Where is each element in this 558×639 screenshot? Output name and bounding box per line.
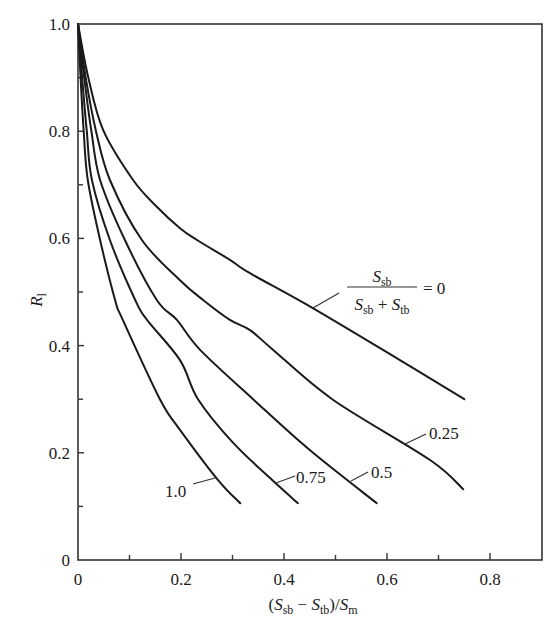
y-axis-title: Rl: [27, 292, 49, 307]
curve-0: [78, 24, 464, 399]
legend-numerator: Ssb: [372, 267, 391, 289]
y-tick-label: 1.0: [49, 15, 70, 34]
legend-denominator: Ssb + Stb: [354, 295, 409, 317]
curve-label-text: 1.0: [165, 482, 186, 501]
chart: 00.20.40.60.800.20.40.60.81.0 Rl (Ssb − …: [0, 0, 558, 639]
y-tick-label: 0.8: [49, 122, 70, 141]
y-tick-label: 0.6: [49, 229, 70, 248]
x-tick-label: 0.4: [273, 570, 295, 589]
curve-label-text: 0.25: [429, 424, 459, 443]
curve-label-0.75: 0.75: [276, 468, 326, 487]
curve-1.0: [78, 24, 240, 503]
curve-0.75: [78, 24, 298, 503]
y-tick-label: 0.4: [49, 337, 71, 356]
leader-line: [313, 293, 339, 308]
curve-label-text: 0.75: [296, 468, 326, 487]
leader-line: [276, 476, 295, 483]
curve-0.5: [78, 24, 377, 503]
legend-equals: = 0: [423, 279, 445, 298]
x-axis-title: (Ssb − Stb)/Sm: [268, 595, 358, 617]
curve-label-0.25: 0.25: [405, 424, 459, 444]
x-tick-label: 0.2: [170, 570, 191, 589]
x-tick-label: 0.8: [479, 570, 500, 589]
curves: [78, 24, 464, 503]
curve-label-text: 0.5: [371, 463, 392, 482]
curve-label-0: Ssb Ssb + Stb = 0: [313, 267, 445, 317]
x-tick-label: 0.6: [376, 570, 397, 589]
leader-line: [193, 478, 215, 484]
curve-label-0.5: 0.5: [351, 463, 392, 482]
curve-label-1.0: 1.0: [165, 478, 215, 501]
leader-line: [351, 472, 368, 481]
y-tick-label: 0.2: [49, 444, 70, 463]
curve-0.25: [78, 24, 463, 489]
leader-line: [405, 434, 426, 444]
x-tick-label: 0: [74, 570, 83, 589]
axis-ticks: [78, 78, 490, 560]
y-tick-label: 0: [62, 551, 71, 570]
